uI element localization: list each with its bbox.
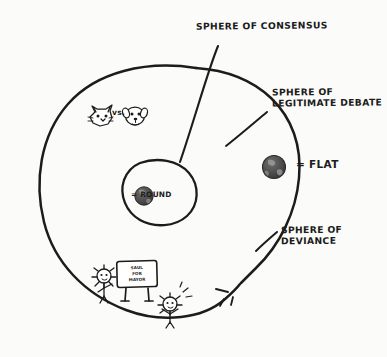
protest-sign-text: SAUL FOR MAYOR bbox=[120, 265, 154, 283]
debate-line-1: SPHERE OF bbox=[272, 86, 333, 98]
leader-line-consensus bbox=[180, 46, 218, 162]
legend-flat-label: = FLAT bbox=[296, 158, 339, 170]
deviance-line-1: SPHERE OF bbox=[281, 224, 342, 236]
globe-flat-icon bbox=[263, 156, 286, 179]
sign-line-3: MAYOR bbox=[120, 276, 154, 283]
protester-right-icon bbox=[158, 282, 192, 328]
label-sphere-of-deviance: SPHERE OFDEVIANCE bbox=[281, 224, 342, 247]
deviance-line-2: DEVIANCE bbox=[281, 235, 336, 247]
cat-face-icon bbox=[88, 105, 113, 126]
debate-line-2: LEGITIMATE DEBATE bbox=[272, 97, 382, 109]
diagram-linework bbox=[0, 0, 387, 357]
protester-left-icon bbox=[92, 265, 116, 303]
cat-vs-dog-label: vs. bbox=[112, 108, 125, 117]
label-sphere-of-consensus: SPHERE OF CONSENSUS bbox=[196, 19, 328, 32]
leader-line-debate bbox=[226, 112, 267, 146]
label-sphere-of-legitimate-debate: SPHERE OFLEGITIMATE DEBATE bbox=[272, 85, 382, 109]
legend-round-label: = ROUND bbox=[131, 190, 172, 199]
diagram-canvas: SPHERE OF CONSENSUS SPHERE OFLEGITIMATE … bbox=[0, 0, 387, 357]
dog-face-icon bbox=[121, 107, 148, 125]
